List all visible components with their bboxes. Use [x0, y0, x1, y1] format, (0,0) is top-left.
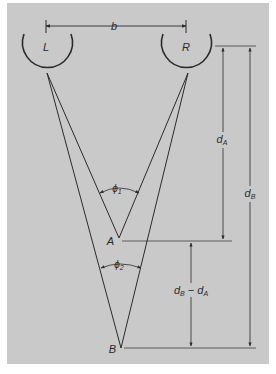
dist-diff-label: dB − dA [174, 284, 208, 297]
baseline-label: b [111, 20, 117, 32]
point-a-label: A [106, 235, 114, 247]
left-eye-label: L [43, 41, 49, 53]
right-eye-label: R [182, 41, 190, 53]
point-b-label: B [109, 343, 116, 355]
figure-panel [7, 3, 269, 364]
stereo-disparity-diagram: b L R ϕ1 ϕ2 A B dA dB [0, 0, 276, 374]
